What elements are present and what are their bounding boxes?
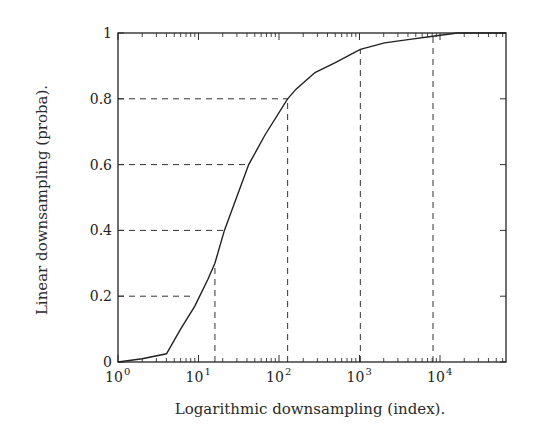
x-tick-label: 10	[105, 369, 123, 385]
x-tick-exponent: 3	[366, 366, 372, 377]
x-tick-label: 10	[347, 369, 365, 385]
y-tick-label: 0.6	[90, 157, 112, 173]
y-tick-labels: 00.20.40.60.81	[90, 25, 112, 370]
x-tick-label: 10	[186, 369, 204, 385]
x-tick-label: 10	[266, 369, 284, 385]
data-curve	[118, 33, 506, 362]
x-tick-labels: 100101102103104	[105, 366, 452, 385]
y-tick-label: 0.2	[90, 288, 112, 304]
major-ticks	[118, 33, 506, 362]
x-tick-label: 10	[427, 369, 445, 385]
y-tick-label: 0.8	[90, 91, 112, 107]
x-axis-label: Logarithmic downsampling (index).	[175, 400, 445, 418]
chart-canvas: 00.20.40.60.81 100101102103104	[0, 0, 537, 444]
y-tick-label: 0.4	[90, 222, 112, 238]
x-tick-exponent: 1	[205, 366, 211, 377]
y-tick-label: 1	[103, 25, 112, 41]
minor-ticks	[142, 33, 502, 362]
y-axis-label: Linear downsampling (proba).	[33, 85, 51, 315]
x-tick-exponent: 4	[446, 366, 452, 377]
y-tick-label: 0	[103, 354, 112, 370]
plot-frame	[118, 33, 506, 362]
x-tick-exponent: 2	[285, 366, 291, 377]
dashed-guides	[118, 36, 433, 362]
x-tick-exponent: 0	[124, 366, 130, 377]
